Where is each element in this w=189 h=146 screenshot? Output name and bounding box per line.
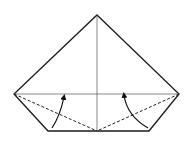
origami-diagram	[0, 0, 189, 146]
paper-outline	[14, 15, 179, 131]
